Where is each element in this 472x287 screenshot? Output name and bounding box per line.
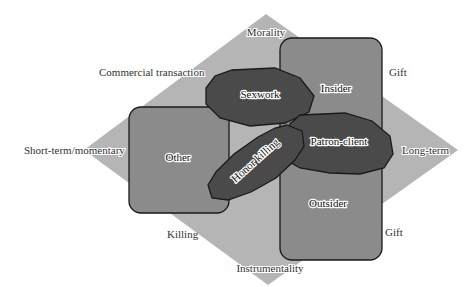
axis-label-left: Short-term/momentary	[24, 144, 125, 156]
side-label-gift-upper: Gift	[389, 66, 407, 78]
axis-label-right: Long-term	[402, 144, 449, 156]
other-label: Other	[165, 151, 190, 163]
sexwork-label: Sexwork	[240, 88, 280, 100]
axis-label-bottom: Instrumentality	[236, 262, 304, 274]
diagram-canvas: Morality Instrumentality Short-term/mome…	[0, 0, 472, 287]
side-label-gift-lower: Gift	[385, 226, 403, 238]
side-label-commercial-transaction: Commercial transaction	[99, 66, 205, 78]
insider-label: Insider	[321, 82, 352, 94]
side-label-killing: Killing	[167, 228, 199, 240]
outsider-label: Outsider	[309, 197, 347, 209]
axis-label-top: Morality	[247, 26, 286, 38]
patron-client-label: Patron-client	[311, 135, 368, 147]
